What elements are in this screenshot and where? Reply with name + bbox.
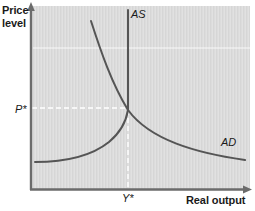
diagram-canvas — [0, 0, 255, 211]
equilibrium-output-label: Y* — [122, 192, 134, 204]
y-axis-title: Price level — [2, 4, 32, 29]
ad-as-macroeconomics-diagram: Price level Real output AS AD P* Y* — [0, 0, 255, 211]
aggregate-supply-label: AS — [131, 8, 146, 20]
aggregate-demand-label: AD — [221, 136, 236, 148]
plot-area-background — [32, 6, 250, 190]
equilibrium-price-label: P* — [15, 103, 27, 115]
x-axis-title: Real output — [186, 194, 245, 207]
